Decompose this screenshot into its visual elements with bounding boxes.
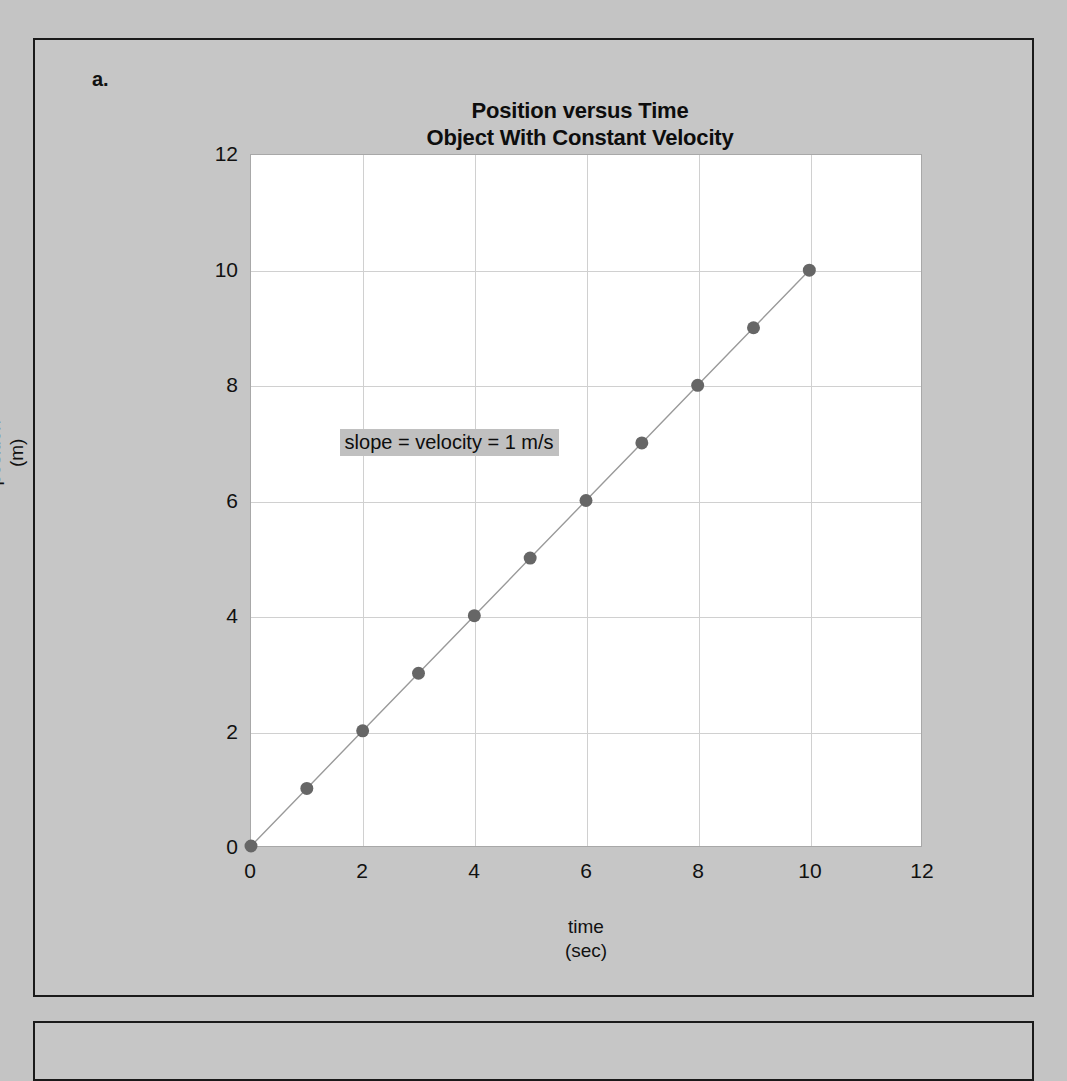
plot-area — [250, 154, 922, 847]
x-axis-label-line1: time — [250, 915, 922, 939]
y-tick-label: 2 — [194, 720, 238, 744]
figure-panel-b — [33, 1021, 1034, 1081]
chart-title: Position versus Time Object With Constan… — [250, 98, 910, 152]
chart-title-line1: Position versus Time — [250, 98, 910, 125]
x-tick-label: 8 — [692, 859, 704, 883]
x-axis-label-line2: (sec) — [250, 939, 922, 963]
series-line-and-markers — [251, 155, 921, 846]
slope-annotation: slope = velocity = 1 m/s — [340, 429, 559, 456]
data-point-marker — [635, 436, 648, 449]
x-tick-label: 6 — [580, 859, 592, 883]
y-axis-label-line1: position — [0, 420, 6, 486]
x-tick-label: 2 — [356, 859, 368, 883]
data-point-marker — [245, 840, 258, 853]
chart-title-line2: Object With Constant Velocity — [250, 125, 910, 152]
data-point-marker — [468, 609, 481, 622]
y-tick-label: 0 — [194, 835, 238, 859]
y-tick-label: 4 — [194, 604, 238, 628]
y-tick-label: 10 — [194, 258, 238, 282]
data-point-marker — [412, 667, 425, 680]
data-point-marker — [747, 321, 760, 334]
data-point-marker — [300, 782, 313, 795]
y-tick-label: 6 — [194, 489, 238, 513]
y-tick-label: 12 — [194, 142, 238, 166]
data-point-marker — [803, 264, 816, 277]
x-tick-label: 4 — [468, 859, 480, 883]
part-label: a. — [92, 68, 109, 91]
x-tick-label: 12 — [910, 859, 933, 883]
data-point-marker — [691, 379, 704, 392]
x-tick-label: 10 — [798, 859, 821, 883]
data-point-marker — [356, 724, 369, 737]
y-axis-label-line2: (m) — [6, 420, 29, 486]
data-point-marker — [580, 494, 593, 507]
figure-panel-a: a. Position versus Time Object With Cons… — [33, 38, 1034, 997]
x-axis-label: time (sec) — [250, 915, 922, 963]
y-tick-label: 8 — [194, 373, 238, 397]
data-point-marker — [524, 552, 537, 565]
y-axis-label: position (m) — [0, 420, 29, 486]
x-tick-label: 0 — [244, 859, 256, 883]
